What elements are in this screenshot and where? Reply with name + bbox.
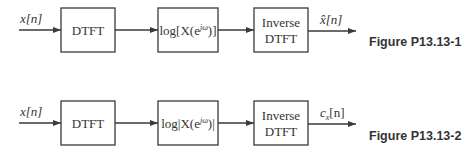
input-signal-label: x[n] bbox=[19, 104, 42, 119]
inverse-label-line2: DTFT bbox=[265, 31, 298, 46]
figure-caption: Figure P13.13-2 bbox=[369, 129, 461, 143]
inverse-label-line1: Inverse bbox=[262, 15, 300, 30]
dtft-block-label: DTFT bbox=[72, 116, 105, 131]
output-signal-label: x̂[n] bbox=[319, 12, 342, 27]
log-block-label: log[X(ejω)] bbox=[160, 23, 217, 38]
figure-caption: Figure P13.13-1 bbox=[369, 35, 461, 49]
inverse-label-line1: Inverse bbox=[262, 108, 300, 123]
block-diagrams: x[n] DTFT log[X(ejω)] Inverse DTFT x̂[n]… bbox=[0, 0, 465, 157]
figure-p13-13-2: x[n] DTFT log|X(ejω)| Inverse DTFT cx[n]… bbox=[19, 101, 461, 145]
output-signal-label: cx[n] bbox=[320, 105, 345, 122]
figure-p13-13-1: x[n] DTFT log[X(ejω)] Inverse DTFT x̂[n]… bbox=[19, 8, 461, 52]
dtft-block-label: DTFT bbox=[72, 23, 105, 38]
input-signal-label: x[n] bbox=[19, 11, 42, 26]
inverse-label-line2: DTFT bbox=[265, 124, 298, 139]
